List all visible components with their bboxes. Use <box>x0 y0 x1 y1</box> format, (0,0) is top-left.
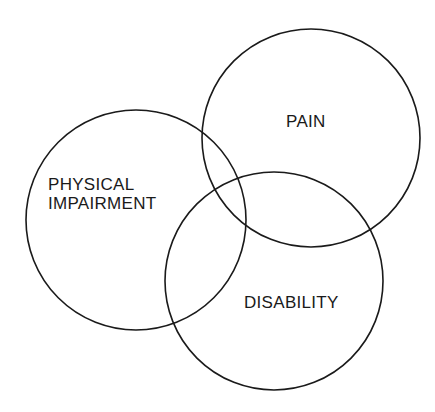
pain-circle <box>202 29 420 247</box>
disability-circle <box>165 172 383 390</box>
physical-label: PHYSICAL <box>48 175 135 194</box>
venn-svg: PAIN PHYSICAL IMPAIRMENT DISABILITY <box>0 0 435 412</box>
impairment-label: IMPAIRMENT <box>48 194 156 213</box>
physical-impairment-circle <box>26 110 246 330</box>
disability-label: DISABILITY <box>244 293 339 312</box>
pain-label: PAIN <box>286 112 326 131</box>
venn-diagram: PAIN PHYSICAL IMPAIRMENT DISABILITY <box>0 0 435 412</box>
